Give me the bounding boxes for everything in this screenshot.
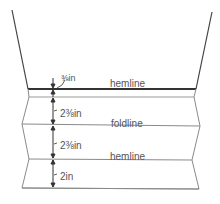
- garment-right-side: [196, 12, 212, 89]
- measurement-label-1: ⅜in: [61, 73, 76, 83]
- measurement-label-2: 2⅜in: [60, 108, 82, 119]
- band-bottom-edge: [22, 188, 199, 189]
- garment-left-side: [12, 10, 28, 89]
- measurement-label-4: 2in: [60, 171, 73, 182]
- hemline-top-label: hemline: [110, 78, 145, 89]
- measurement-arrow-2: [51, 98, 57, 124]
- hem-diagram: ⅜in hemline 2⅜in foldline 2⅜in hemline 2…: [0, 0, 220, 204]
- foldline-label: foldline: [111, 118, 143, 129]
- folded-fabric-outline: [22, 89, 200, 189]
- measurement-arrow-4: [51, 160, 57, 187]
- hemline-bottom-label: hemline: [110, 151, 145, 162]
- measurement-label-3: 2⅜in: [60, 140, 82, 151]
- measurement-arrow-3: [51, 126, 57, 158]
